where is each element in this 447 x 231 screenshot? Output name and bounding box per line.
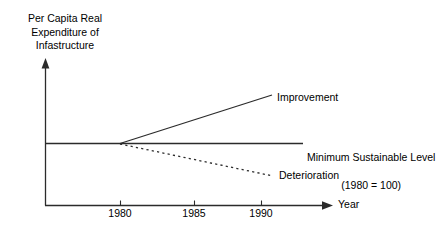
x-axis-title: Year — [338, 198, 359, 210]
series-label-deterioration: Deterioration — [279, 169, 339, 181]
chart-figure: Per Capita Real Expenditure of Infastruc… — [0, 0, 447, 231]
x-tick-label-1980: 1980 — [90, 207, 150, 219]
y-axis — [42, 58, 50, 206]
x-tick-label-1985: 1985 — [164, 207, 224, 219]
msl-title-line: Minimum Sustainable Level — [307, 150, 435, 164]
x-axis-ticks — [121, 201, 262, 206]
series-line-improvement — [120, 95, 272, 144]
series-line-deterioration — [120, 144, 273, 176]
x-tick-label-1990: 1990 — [231, 207, 291, 219]
series-label-improvement: Improvement — [277, 91, 338, 103]
